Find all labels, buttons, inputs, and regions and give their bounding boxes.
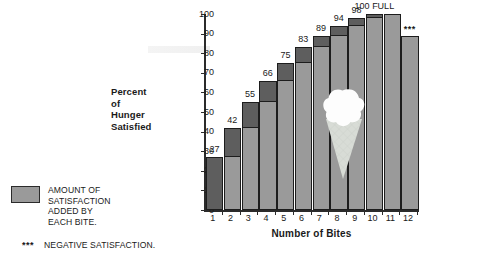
footnote-star-marker: *** xyxy=(22,240,34,250)
bar-series: 274255667583899498100 FULL*** xyxy=(206,14,419,210)
x-axis-tick-label: 4 xyxy=(257,214,275,223)
y-axis-tick-mark xyxy=(201,171,204,172)
bar-value-label: 42 xyxy=(227,116,237,125)
bar-increment-segment xyxy=(224,128,241,157)
x-axis-tick-label: 11 xyxy=(382,214,400,223)
x-axis-title: Number of Bites xyxy=(204,228,419,239)
bar[interactable]: 83 xyxy=(295,47,312,210)
bar[interactable]: 42 xyxy=(224,128,241,210)
legend-item-increment: AMOUNT OF SATISFACTION ADDED BY EACH BIT… xyxy=(11,185,186,227)
y-axis-title-line-3: Hunger xyxy=(111,109,152,121)
bar-increment-segment xyxy=(366,14,383,18)
bar-value-label: 89 xyxy=(316,24,326,33)
y-axis-title-line-2: of xyxy=(111,98,152,110)
bar-increment-segment xyxy=(313,36,330,48)
x-axis-tick-label: 10 xyxy=(364,214,382,223)
full-annotation: 100 FULL xyxy=(355,2,395,11)
y-axis-tick-mark xyxy=(201,210,204,211)
y-axis-title-line-1: Percent xyxy=(111,86,152,98)
y-axis-tick-mark xyxy=(201,14,204,15)
y-axis-tick-mark xyxy=(201,92,204,93)
chart-canvas: Percent of Hunger Satisfied 010203040506… xyxy=(0,0,478,263)
x-axis-tick-label: 12 xyxy=(399,214,417,223)
y-axis-tick-mark xyxy=(201,34,204,35)
bar-increment-segment xyxy=(277,63,294,81)
bar[interactable]: 55 xyxy=(242,102,259,210)
x-axis-tick-label: 5 xyxy=(275,214,293,223)
negative-satisfaction-marker: *** xyxy=(404,25,416,34)
bar-value-label: 94 xyxy=(334,14,344,23)
y-axis-title-line-4: Satisfied xyxy=(111,121,152,133)
bar-increment-segment xyxy=(206,157,223,210)
x-axis-tick-label: 3 xyxy=(240,214,258,223)
y-axis-tick-mark xyxy=(201,151,204,152)
bar[interactable]: 100 FULL xyxy=(366,14,383,210)
bar[interactable]: 94 xyxy=(330,26,347,210)
x-axis-tick-label: 2 xyxy=(222,214,240,223)
x-axis-tick-label: 1 xyxy=(204,214,222,223)
legend-label: AMOUNT OF SATISFACTION ADDED BY EACH BIT… xyxy=(48,185,111,227)
x-axis-tick-label: 9 xyxy=(346,214,364,223)
bar[interactable]: 66 xyxy=(259,81,276,210)
x-axis-tick-label: 8 xyxy=(328,214,346,223)
plot-area: 0102030405060708090100 27425566758389949… xyxy=(204,14,419,212)
legend-footnote: *** NEGATIVE SATISFACTION. xyxy=(22,240,155,250)
footnote-label: NEGATIVE SATISFACTION. xyxy=(44,240,155,250)
legend-swatch xyxy=(11,186,40,203)
y-axis-tick-mark xyxy=(201,112,204,113)
bar[interactable]: *** xyxy=(401,36,418,210)
bar[interactable]: 27 xyxy=(206,157,223,210)
bar-increment-segment xyxy=(348,18,365,26)
legend: AMOUNT OF SATISFACTION ADDED BY EACH BIT… xyxy=(11,185,186,227)
y-axis-tick-mark xyxy=(201,73,204,74)
bar-increment-segment xyxy=(242,102,259,127)
bar[interactable] xyxy=(384,14,401,210)
y-axis-tick-mark xyxy=(201,53,204,54)
bar-value-label: 55 xyxy=(245,90,255,99)
bar-value-label: 66 xyxy=(263,69,273,78)
bar-value-label: 83 xyxy=(298,35,308,44)
bar-value-label: 27 xyxy=(210,145,220,154)
y-axis-tick-mark xyxy=(201,190,204,191)
bar[interactable]: 89 xyxy=(313,36,330,210)
x-axis-tick-label: 6 xyxy=(293,214,311,223)
y-axis-tick-mark xyxy=(201,132,204,133)
x-axis-tick-label: 7 xyxy=(311,214,329,223)
bar-increment-segment xyxy=(330,26,347,36)
bar[interactable]: 98 xyxy=(348,18,365,210)
y-axis-title: Percent of Hunger Satisfied xyxy=(111,86,152,132)
bar[interactable]: 75 xyxy=(277,63,294,210)
x-axis-line xyxy=(204,210,419,212)
bar-increment-segment xyxy=(295,47,312,63)
bar-increment-segment xyxy=(259,81,276,103)
x-axis-tick-mark xyxy=(417,212,418,215)
bar-value-label: 75 xyxy=(281,51,291,60)
